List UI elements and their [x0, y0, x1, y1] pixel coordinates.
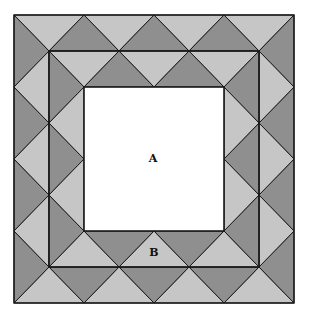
label-a: A: [149, 152, 158, 165]
label-b: B: [149, 246, 158, 259]
